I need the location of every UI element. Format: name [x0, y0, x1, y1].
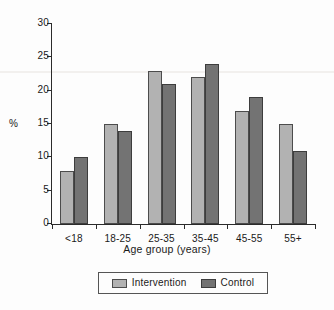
x-axis-tick — [227, 224, 228, 229]
y-tick-label: 30 — [9, 17, 49, 29]
y-tick-label: 10 — [9, 150, 49, 162]
x-axis-tick — [271, 224, 272, 229]
legend-item-control[interactable]: Control — [201, 277, 255, 289]
bar-control-25-35 — [162, 84, 176, 224]
x-axis-tick — [96, 224, 97, 229]
bar-intervention-35-45 — [191, 77, 205, 224]
x-axis-tick — [315, 224, 316, 229]
chart-figure: % 051015202530<1818-2525-3535-4545-5555+… — [0, 0, 334, 310]
bar-control-45-55 — [249, 97, 263, 224]
bar-intervention-18-25 — [104, 124, 118, 224]
plot-area: 051015202530<1818-2525-3535-4545-5555+ — [52, 24, 315, 224]
y-tick-label: 25 — [9, 50, 49, 62]
bar-control-18-25 — [118, 131, 132, 224]
legend-swatch-icon — [201, 279, 216, 288]
chart-legend: InterventionControl — [98, 272, 268, 294]
x-axis-tick — [52, 224, 53, 229]
bar-control-<18 — [74, 157, 88, 224]
x-axis-tick — [184, 224, 185, 229]
legend-label: Intervention — [132, 277, 187, 289]
legend-item-intervention[interactable]: Intervention — [112, 277, 187, 289]
x-axis-label: Age group (years) — [0, 243, 334, 256]
bar-control-35-45 — [205, 64, 219, 224]
bar-control-55+ — [293, 151, 307, 224]
bar-intervention-55+ — [279, 124, 293, 224]
legend-swatch-icon — [112, 279, 127, 288]
bar-intervention-<18 — [60, 171, 74, 224]
bar-intervention-25-35 — [148, 71, 162, 224]
bar-intervention-45-55 — [235, 111, 249, 224]
y-tick-label: 20 — [9, 84, 49, 96]
y-tick-label: 5 — [9, 184, 49, 196]
x-axis-tick — [140, 224, 141, 229]
y-tick-label: 0 — [9, 217, 49, 229]
y-tick-label: 15 — [9, 117, 49, 129]
legend-label: Control — [221, 277, 255, 289]
